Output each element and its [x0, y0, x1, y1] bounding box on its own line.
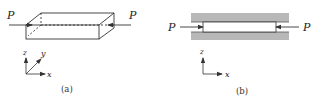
x-axis-label: x [47, 70, 52, 79]
figure-b: P P z x (b) [167, 13, 311, 96]
figure-a: P P z y x (a) [6, 9, 137, 94]
force-label-right: P [128, 9, 137, 22]
caption-a: (a) [61, 84, 73, 94]
specimen-slab [203, 22, 276, 32]
caption-b: (b) [236, 86, 248, 96]
x-axis-label-b: x [225, 70, 230, 79]
force-label-left: P [6, 9, 15, 22]
z-axis-label: z [22, 49, 27, 57]
rectangular-block [26, 13, 114, 39]
diagram-canvas: P P z y x (a) P [0, 0, 321, 107]
y-axis [26, 59, 41, 74]
bottom-plate [191, 32, 289, 40]
force-label-left-b: P [167, 21, 176, 34]
top-plate [191, 13, 289, 22]
coordinate-axes-a [26, 58, 45, 74]
z-axis-label-b: z [199, 48, 204, 56]
force-arrow-left: P [6, 9, 32, 25]
coordinate-axes-b [203, 58, 222, 74]
force-label-right-b: P [302, 21, 311, 34]
y-axis-label: y [40, 49, 46, 58]
force-arrow-right: P [108, 9, 137, 25]
